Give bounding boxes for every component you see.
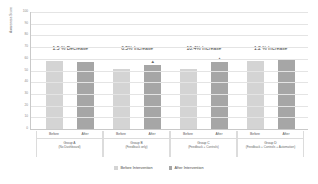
gridline (31, 59, 308, 60)
x-label-after: After (211, 133, 228, 136)
legend-swatch-before-icon (114, 166, 118, 170)
gridline (31, 35, 308, 36)
y-axis-tick: 40 (24, 81, 31, 84)
gridline (31, 82, 308, 83)
group-subtitle: (Feedback + Controls + Automation) (238, 146, 303, 150)
y-axis-title: Awareness Score (9, 0, 13, 50)
chart-legend: Before Intervention After Intervention (0, 166, 318, 170)
group-subtitle: (Feedback only) (104, 146, 169, 150)
gridline (31, 71, 308, 72)
y-axis-tick: 50 (24, 69, 31, 72)
y-axis-tick: 70 (24, 45, 31, 48)
bar-before[interactable] (180, 69, 197, 129)
legend-item-before[interactable]: Before Intervention (114, 166, 152, 170)
gridline (31, 117, 308, 118)
gridline (31, 24, 308, 25)
legend-item-after[interactable]: After Intervention (169, 166, 204, 170)
x-axis-group: Before After Group D (Feedback + Control… (237, 131, 304, 157)
group-subtitle: (No Dashboard) (37, 146, 102, 150)
gridline (31, 94, 308, 95)
x-axis: Before After Group A (No Dashboard) Befo… (30, 131, 308, 157)
bar-after[interactable] (77, 62, 94, 129)
y-axis-tick: 90 (24, 22, 31, 25)
plot-area: 1.5 % Decrease 6.5% Increase ▲ (30, 12, 308, 130)
y-axis-tick: 30 (24, 92, 31, 95)
gridline (31, 47, 308, 48)
x-label-before: Before (180, 133, 197, 136)
x-label-before: Before (46, 133, 63, 136)
gridline (31, 12, 308, 13)
gridline (31, 106, 308, 107)
x-label-after: After (278, 133, 295, 136)
increase-arrow-icon: ▲ (150, 60, 154, 65)
bar-chart: Awareness Score 1.5 % Decrease 6.5% Incr… (0, 0, 318, 184)
y-axis-tick: 20 (24, 104, 31, 107)
bar-before[interactable] (113, 69, 130, 129)
x-axis-group: Before After Group B (Feedback only) (103, 131, 170, 157)
x-axis-group: Before After Group A (No Dashboard) (36, 131, 103, 157)
legend-label-after: After Intervention (175, 166, 204, 170)
x-axis-group: Before After Group C (Feedback + Control… (170, 131, 237, 157)
legend-label-before: Before Intervention (120, 166, 152, 170)
bar-after[interactable] (144, 65, 161, 129)
group-subtitle: (Feedback + Controls) (171, 146, 236, 150)
y-axis-tick: 10 (24, 116, 31, 119)
x-label-after: After (144, 133, 161, 136)
y-axis-tick: 80 (24, 34, 31, 37)
y-axis-tick: 60 (24, 57, 31, 60)
x-label-before: Before (247, 133, 264, 136)
legend-swatch-after-icon (169, 166, 173, 170)
y-axis-tick: 100 (23, 10, 31, 13)
x-label-before: Before (113, 133, 130, 136)
bar-after[interactable] (211, 62, 228, 129)
x-label-after: After (77, 133, 94, 136)
